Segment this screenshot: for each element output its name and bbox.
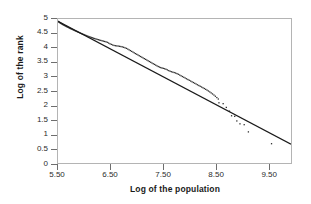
data-point: [182, 76, 183, 77]
data-point: [113, 45, 114, 46]
data-point: [168, 70, 169, 71]
data-point: [92, 37, 93, 38]
data-point: [141, 57, 142, 58]
data-point: [213, 94, 214, 95]
data-point: [144, 58, 145, 59]
data-point: [205, 89, 206, 90]
data-point: [146, 59, 147, 60]
data-point: [151, 62, 152, 63]
data-point: [223, 103, 224, 104]
data-point: [195, 83, 196, 84]
y-axis-tick-label: 2.5: [20, 86, 48, 95]
data-point: [115, 45, 116, 46]
y-axis-tick-label: 3.5: [20, 56, 48, 65]
data-point: [128, 49, 129, 50]
data-point: [179, 74, 180, 75]
data-point: [171, 71, 172, 72]
data-point: [236, 120, 237, 121]
y-axis-tick-label: 0.5: [20, 144, 48, 153]
data-point: [130, 50, 131, 51]
data-point: [105, 41, 106, 42]
data-point: [104, 41, 105, 42]
y-axis-tick-label: 2: [20, 100, 48, 109]
data-point: [244, 124, 245, 125]
data-point: [169, 71, 170, 72]
data-point: [96, 39, 97, 40]
data-point: [174, 72, 175, 73]
data-point: [95, 38, 96, 39]
data-point: [91, 37, 92, 38]
regression-line-layer: [58, 21, 291, 144]
y-axis-tick-label: 3: [20, 71, 48, 80]
data-point: [206, 89, 207, 90]
data-point: [163, 68, 164, 69]
x-axis-title: Log of the population: [57, 184, 293, 194]
data-point: [172, 72, 173, 73]
data-point: [131, 51, 132, 52]
data-point: [120, 46, 121, 47]
data-point: [98, 39, 99, 40]
data-point: [197, 84, 198, 85]
chart-figure: Log of the rank 00.511.522.533.544.55 5.…: [0, 0, 311, 204]
data-point: [140, 56, 141, 57]
data-point: [186, 78, 187, 79]
data-point: [208, 90, 209, 91]
data-point: [187, 79, 188, 80]
data-point: [156, 65, 157, 66]
data-point: [159, 66, 160, 67]
data-point: [145, 59, 146, 60]
data-point: [150, 62, 151, 63]
data-point: [136, 54, 137, 55]
data-point: [161, 67, 162, 68]
y-axis-tick-label: 5: [20, 13, 48, 22]
data-point: [216, 97, 217, 98]
data-point: [215, 96, 216, 97]
y-axis-tick-label: 0: [20, 159, 48, 168]
data-point: [137, 54, 138, 55]
data-point: [193, 82, 194, 83]
data-point: [100, 40, 101, 41]
data-point: [194, 83, 195, 84]
data-point: [109, 43, 110, 44]
y-axis-tick-label: 1.5: [20, 115, 48, 124]
data-point: [135, 53, 136, 54]
data-point: [239, 123, 240, 124]
data-point: [202, 87, 203, 88]
data-point: [116, 45, 117, 46]
data-point: [122, 46, 123, 47]
data-point: [127, 48, 128, 49]
data-point: [149, 61, 150, 62]
data-point: [234, 116, 235, 117]
data-point: [118, 45, 119, 46]
data-point: [134, 52, 135, 53]
data-point: [226, 107, 227, 108]
data-point: [248, 131, 249, 132]
data-point: [231, 115, 232, 116]
data-point: [103, 40, 104, 41]
data-point: [119, 46, 120, 47]
scatter-points-layer: [58, 21, 272, 145]
plot-area: [57, 18, 292, 164]
data-point: [126, 48, 127, 49]
data-point: [190, 80, 191, 81]
data-point: [180, 75, 181, 76]
data-point: [164, 68, 165, 69]
data-point: [271, 143, 272, 144]
data-point: [154, 64, 155, 65]
data-point: [185, 77, 186, 78]
data-point: [158, 66, 159, 67]
data-point: [175, 72, 176, 73]
data-point: [183, 77, 184, 78]
data-point: [132, 51, 133, 52]
data-point: [200, 86, 201, 87]
x-axis-tick-label: 6.50: [90, 170, 130, 179]
data-point: [155, 64, 156, 65]
plot-canvas: [58, 19, 291, 163]
data-point: [101, 40, 102, 41]
data-point: [218, 102, 219, 103]
data-point: [201, 86, 202, 87]
data-point: [160, 67, 161, 68]
data-point: [211, 92, 212, 93]
data-point: [178, 74, 179, 75]
data-point: [176, 73, 177, 74]
